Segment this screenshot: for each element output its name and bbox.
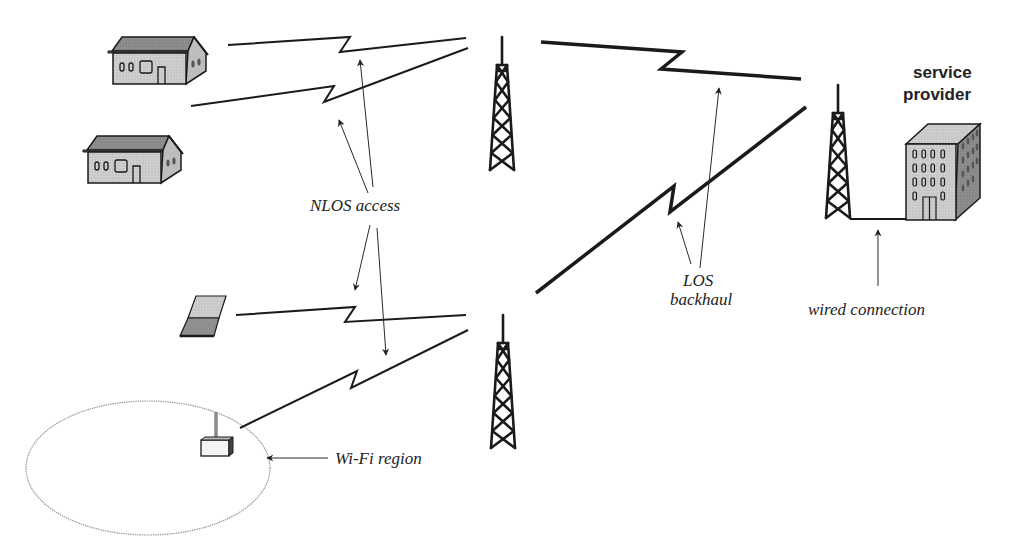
wifi-region-label: Wi-Fi region (335, 449, 422, 468)
nlos-link-house2 (191, 48, 468, 106)
wifi-region (26, 401, 270, 535)
nlos-link-laptop (236, 307, 466, 322)
house-icon (108, 37, 208, 84)
house-icon (83, 136, 183, 183)
los-backhaul-label-line1: LOS (682, 271, 714, 290)
tower-icon (490, 37, 514, 170)
service-provider-label-line2: provider (903, 85, 971, 104)
nlos-access-label: NLOS access (309, 196, 401, 215)
access-point-icon (201, 412, 233, 456)
service-provider-label-line1: service (913, 63, 972, 82)
los-backhaul-label-line2: backhaul (670, 290, 733, 309)
laptop-icon (180, 296, 226, 336)
los-link-bottom (536, 107, 806, 293)
tower-icon (826, 85, 850, 218)
tower-icon (491, 315, 515, 448)
building-icon (906, 124, 980, 220)
nlos-link-wifi (240, 330, 468, 428)
nlos-link-house1 (228, 37, 466, 52)
network-diagram: NLOS access LOS backhaul service provide… (0, 0, 1032, 543)
wired-connection-label: wired connection (808, 300, 925, 319)
los-link-top (541, 42, 801, 79)
